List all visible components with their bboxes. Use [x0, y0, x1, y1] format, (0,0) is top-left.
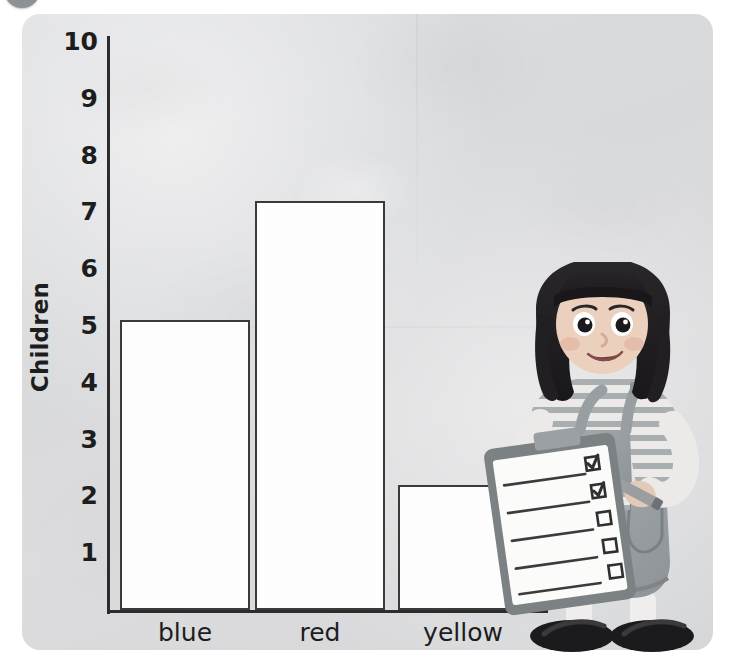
- clipboard: [483, 427, 637, 616]
- activity-number-badge: [4, 0, 40, 8]
- girl-with-clipboard-illustration: [480, 262, 730, 662]
